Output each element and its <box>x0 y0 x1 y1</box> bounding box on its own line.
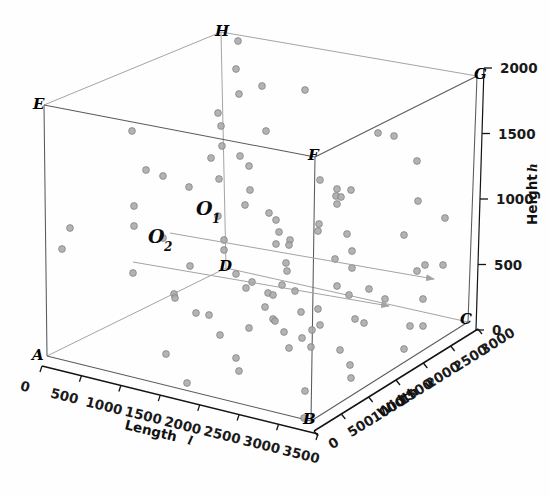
scatter-point <box>366 286 373 293</box>
scatter-point <box>263 128 270 135</box>
scatter-point <box>292 288 299 295</box>
scatter-point <box>391 133 398 140</box>
scatter-point <box>59 246 66 253</box>
scatter-point <box>259 83 266 90</box>
scatter-point <box>382 296 389 303</box>
scatter-point <box>346 292 353 299</box>
vertex-label-B: B <box>302 410 316 428</box>
scatter-point <box>299 335 306 342</box>
scatter-point <box>186 184 193 191</box>
x-axis-tick <box>198 405 200 411</box>
y-axis-tick <box>451 346 455 351</box>
x-axis-tick-label: 2500 <box>202 422 242 447</box>
scatter-point <box>348 187 355 194</box>
scatter-point <box>284 268 291 275</box>
x-axis-tick-label: 1000 <box>84 393 124 418</box>
scatter-point <box>414 158 421 165</box>
scatter-point <box>143 167 150 174</box>
scatter-point <box>286 242 293 249</box>
scatter-point <box>233 355 240 362</box>
scatter-point <box>208 155 215 162</box>
scatter-point <box>206 312 213 319</box>
scatter-point <box>233 271 240 278</box>
scatter-point <box>298 309 305 316</box>
z-axis-symbol: h <box>526 163 540 172</box>
scatter-point <box>236 368 243 375</box>
scatter-point <box>442 215 449 222</box>
x-axis-tick <box>277 424 279 430</box>
scatter-point <box>246 163 253 170</box>
x-axis-tick-label: 0 <box>19 377 32 395</box>
scatter-point <box>317 177 324 184</box>
z-axis-tick-label: 500 <box>494 257 522 273</box>
scatter-point <box>262 304 269 311</box>
scatter-point <box>349 248 356 255</box>
scatter-point <box>276 229 283 236</box>
scatter-point <box>415 198 422 205</box>
y-axis-tick-label: 0 <box>325 433 341 452</box>
scatter-point <box>422 262 429 269</box>
scatter-point <box>375 130 382 137</box>
annotation-label-O1: O <box>196 197 213 219</box>
scatter-point <box>420 296 427 303</box>
scatter-point <box>217 332 224 339</box>
scatter-point <box>129 128 136 135</box>
scatter-point <box>187 263 194 270</box>
scatter-point <box>221 247 228 254</box>
scatter-point <box>283 260 290 267</box>
scatter-point <box>401 232 408 239</box>
scatter-point <box>246 325 253 332</box>
scatter-point <box>235 38 242 45</box>
scatter-point <box>401 346 408 353</box>
scatter-point <box>163 351 170 358</box>
scatter-point <box>317 322 324 329</box>
z-axis-title: Height <box>524 174 540 225</box>
scatter-point <box>334 186 341 193</box>
x-axis-tick <box>158 395 160 401</box>
scatter-point <box>272 318 279 325</box>
y-axis-tick <box>341 414 345 419</box>
y-axis-tick <box>369 397 373 402</box>
annotation-label-O2: O <box>148 225 165 247</box>
scatter-point <box>334 201 341 208</box>
scatter-point <box>270 292 277 299</box>
z-axis-tick-label: 2000 <box>500 60 538 76</box>
scatter-point <box>236 91 243 98</box>
cube-panes <box>44 32 477 421</box>
scatter-point <box>247 187 254 194</box>
scatter-point <box>233 66 240 73</box>
x-axis-tick-label: 500 <box>49 385 80 407</box>
scatter-point <box>308 344 315 351</box>
scatter-point <box>338 194 345 201</box>
scatter-point <box>131 223 138 230</box>
scatter-point <box>414 268 421 275</box>
z-axis-ticks <box>476 68 492 330</box>
scatter-point <box>347 362 354 369</box>
vertex-label-A: A <box>30 346 44 364</box>
x-axis-tick <box>40 366 42 372</box>
scatter-point <box>237 153 244 160</box>
scatter-point <box>440 262 447 269</box>
scatter-point <box>215 110 222 117</box>
scatter-point <box>243 285 250 292</box>
scatter-point <box>337 347 344 354</box>
scatter-point <box>286 345 293 352</box>
scatter-point <box>344 231 351 238</box>
scatter-point <box>184 380 191 387</box>
x-axis-tick <box>237 415 239 421</box>
scatter-point <box>352 316 359 323</box>
x-axis-tick-label: 3500 <box>281 442 321 467</box>
scatter-point <box>407 323 414 330</box>
vertex-label-F: F <box>307 146 320 164</box>
vertex-label-D: D <box>218 257 232 275</box>
scatter-point <box>281 329 288 336</box>
vertex-label-H: H <box>214 22 230 40</box>
scatter-point <box>273 217 280 224</box>
scatter-3d-svg: O 1 O 2 A B C D E F G H 0500100015002000… <box>0 0 550 496</box>
y-axis-tick <box>423 363 427 368</box>
scatter-point <box>302 87 309 94</box>
scatter-point <box>309 327 316 334</box>
scatter-point <box>348 375 355 382</box>
scatter-point <box>266 210 273 217</box>
scatter-point <box>302 388 309 395</box>
